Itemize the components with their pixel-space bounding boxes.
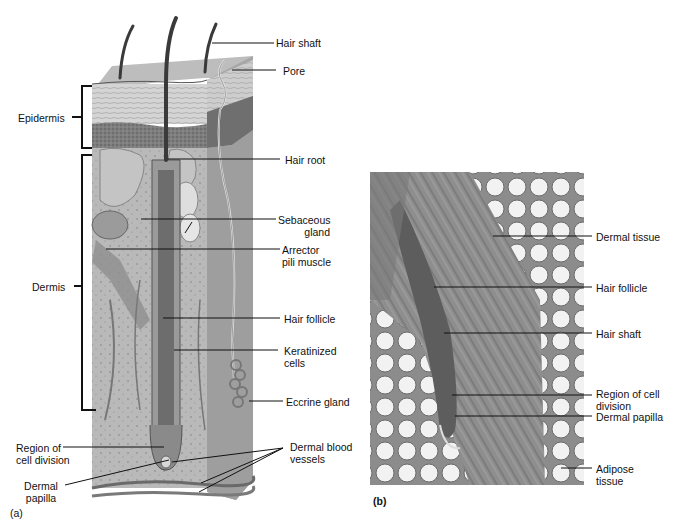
panel-a-tag: (a) — [10, 507, 23, 519]
label-hair-shaft: Hair shaft — [276, 37, 321, 49]
label-sebaceous-gland: Sebaceous gland — [278, 214, 330, 238]
label-dermal-papilla-b: Dermal papilla — [596, 411, 663, 423]
label-keratinized-line2: cells — [284, 357, 337, 369]
label-hair-follicle: Hair follicle — [284, 313, 335, 325]
label-keratinized-cells: Keratinized cells — [284, 345, 337, 369]
label-adipose-tissue: Adipose tissue — [596, 463, 634, 487]
label-eccrine-gland: Eccrine gland — [286, 396, 350, 408]
label-arrector-line1: Arrector — [282, 244, 331, 256]
label-region-b-line1: Region of cell — [596, 388, 660, 400]
label-hair-follicle-b: Hair follicle — [596, 282, 647, 294]
label-pore: Pore — [283, 65, 305, 77]
label-vessels-line1: Dermal blood — [290, 441, 352, 453]
skin-block — [92, 18, 254, 500]
label-vessels-line2: vessels — [290, 453, 352, 465]
label-dermis: Dermis — [32, 281, 65, 293]
label-dermal-papilla-a: Dermal papilla — [20, 480, 62, 504]
micrograph — [370, 172, 584, 485]
label-arrector-line2: pili muscle — [282, 256, 331, 268]
label-keratinized-line1: Keratinized — [284, 345, 337, 357]
panel-b-tag: (b) — [373, 495, 386, 507]
label-region-line1: Region of — [16, 442, 70, 454]
label-dermal-tissue: Dermal tissue — [596, 231, 660, 243]
label-sebaceous-gland-line2: gland — [278, 226, 330, 238]
label-hair-shaft-b: Hair shaft — [596, 328, 641, 340]
label-arrector-pili: Arrector pili muscle — [282, 244, 331, 268]
label-dermal-blood-vessels: Dermal blood vessels — [290, 441, 352, 465]
label-region-cell-division-b: Region of cell division — [596, 388, 660, 412]
label-region-cell-division-a: Region of cell division — [16, 442, 70, 466]
label-adipose-line2: tissue — [596, 475, 634, 487]
label-sebaceous-gland-line1: Sebaceous — [278, 214, 330, 226]
label-adipose-line1: Adipose — [596, 463, 634, 475]
label-region-line2: cell division — [16, 454, 70, 466]
label-papilla-line1: Dermal — [20, 480, 62, 492]
label-epidermis: Epidermis — [18, 112, 65, 124]
label-papilla-line2: papilla — [20, 492, 62, 504]
label-hair-root: Hair root — [285, 154, 325, 166]
